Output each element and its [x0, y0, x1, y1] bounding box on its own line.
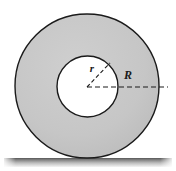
inner-radius-label: r: [90, 62, 95, 74]
outer-radius-label: R: [123, 68, 132, 82]
figure-container: r R: [0, 0, 176, 171]
annulus-diagram: r R: [0, 0, 176, 171]
ground-surface: [4, 158, 172, 167]
